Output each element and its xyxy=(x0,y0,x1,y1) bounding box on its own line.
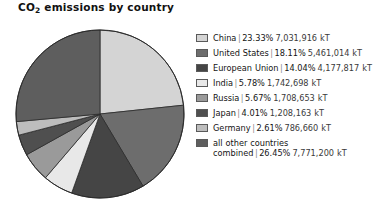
legend-percent: 14.04% xyxy=(284,63,315,73)
legend-item[interactable]: European Union|14.04%4,177,817 kT xyxy=(196,63,386,73)
legend-label: India|5.78%1,742,698 kT xyxy=(213,78,321,88)
legend-value: 1,742,698 kT xyxy=(265,78,321,88)
legend-percent: 18.11% xyxy=(275,48,306,58)
legend-label: Russia|5.67%1,708,653 kT xyxy=(213,93,327,103)
legend-category-name: European Union xyxy=(213,63,279,73)
legend-category-name: United States xyxy=(213,48,269,58)
legend-percent: 23.33% xyxy=(242,33,273,43)
legend-value: 5,461,014 kT xyxy=(306,48,362,58)
legend-swatch xyxy=(196,109,208,117)
pie-slice[interactable] xyxy=(16,30,100,122)
legend-item[interactable]: China|23.33%7,031,916 kT xyxy=(196,33,386,43)
legend-swatch xyxy=(196,124,208,132)
legend-label: Germany|2.61%786,660 kT xyxy=(213,123,331,133)
chart-title-main: CO xyxy=(18,1,35,13)
legend-category-name: Germany xyxy=(213,123,251,133)
legend-item[interactable]: United States|18.11%5,461,014 kT xyxy=(196,48,386,58)
legend-label: all other countries combined|26.45%7,771… xyxy=(213,138,386,158)
legend-category-name: Japan xyxy=(213,108,236,118)
pie-slice[interactable] xyxy=(100,30,184,114)
chart-title-rest: emissions by country xyxy=(40,1,174,13)
legend-label: European Union|14.04%4,177,817 kT xyxy=(213,63,372,73)
legend-item[interactable]: all other countries combined|26.45%7,771… xyxy=(196,138,386,158)
legend-label: United States|18.11%5,461,014 kT xyxy=(213,48,362,58)
legend-percent: 26.45% xyxy=(259,148,290,158)
legend-swatch xyxy=(196,79,208,87)
legend-swatch xyxy=(196,49,208,57)
pie-chart-figure: CO2 emissions by country China|23.33%7,0… xyxy=(0,0,387,220)
legend-percent: 4.01% xyxy=(242,108,268,118)
legend-swatch xyxy=(196,64,208,72)
pie-svg xyxy=(14,14,186,220)
pie-plot-area xyxy=(14,14,186,220)
legend-percent: 5.78% xyxy=(239,78,265,88)
legend-value: 1,708,653 kT xyxy=(271,93,327,103)
legend-item[interactable]: Russia|5.67%1,708,653 kT xyxy=(196,93,386,103)
legend-value: 4,177,817 kT xyxy=(316,63,372,73)
legend-item[interactable]: Germany|2.61%786,660 kT xyxy=(196,123,386,133)
legend-swatch xyxy=(196,94,208,102)
chart-title: CO2 emissions by country xyxy=(18,1,174,13)
chart-legend: China|23.33%7,031,916 kTUnited States|18… xyxy=(196,33,386,163)
legend-value: 786,660 kT xyxy=(282,123,331,133)
legend-category-name: Russia xyxy=(213,93,239,103)
legend-value: 7,031,916 kT xyxy=(273,33,329,43)
legend-category-name: China xyxy=(213,33,236,43)
legend-label: Japan|4.01%1,208,163 kT xyxy=(213,108,324,118)
legend-value: 7,771,200 kT xyxy=(290,148,346,158)
legend-item[interactable]: Japan|4.01%1,208,163 kT xyxy=(196,108,386,118)
legend-value: 1,208,163 kT xyxy=(268,108,324,118)
legend-percent: 2.61% xyxy=(256,123,282,133)
legend-percent: 5.67% xyxy=(245,93,271,103)
legend-label: China|23.33%7,031,916 kT xyxy=(213,33,330,43)
legend-swatch xyxy=(196,34,208,42)
legend-category-name: India xyxy=(213,78,233,88)
legend-swatch xyxy=(196,139,208,147)
figure-footnote xyxy=(14,213,384,220)
legend-item[interactable]: India|5.78%1,742,698 kT xyxy=(196,78,386,88)
